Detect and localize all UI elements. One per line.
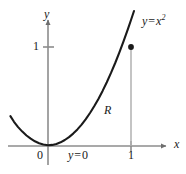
- origin-label: 0: [37, 149, 43, 161]
- x-axis-tick-label-1: 1: [128, 149, 134, 161]
- parabola-curve: [10, 11, 134, 145]
- lower-boundary-lhs: y: [68, 148, 73, 162]
- y-axis-label: y: [44, 8, 49, 20]
- lower-boundary-rhs: 0: [82, 148, 88, 162]
- lower-boundary-operator: =: [74, 148, 81, 162]
- region-label: R: [104, 104, 111, 116]
- x-axis-label: x: [174, 138, 179, 150]
- y-axis-tick-label-1: 1: [33, 40, 39, 52]
- curve-equation-label: y=x2: [142, 15, 165, 27]
- curve-equation-rhs-exponent: 2: [161, 13, 165, 22]
- lower-boundary-label: y=0: [68, 149, 88, 161]
- point-marker-1-1: [128, 44, 134, 50]
- curve-equation-lhs: y: [142, 14, 147, 28]
- figure-parabola-region: y=x2 R y x 1 1 0 y=0: [0, 0, 186, 174]
- curve-equation-operator: =: [148, 14, 155, 28]
